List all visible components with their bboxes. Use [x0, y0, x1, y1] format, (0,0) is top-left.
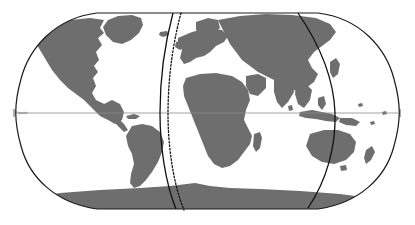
land-tasmania [340, 165, 347, 171]
world-map-figure: Equator [0, 0, 415, 225]
world-map-svg: Equator [0, 0, 415, 225]
equator-label: Equator [16, 111, 29, 115]
